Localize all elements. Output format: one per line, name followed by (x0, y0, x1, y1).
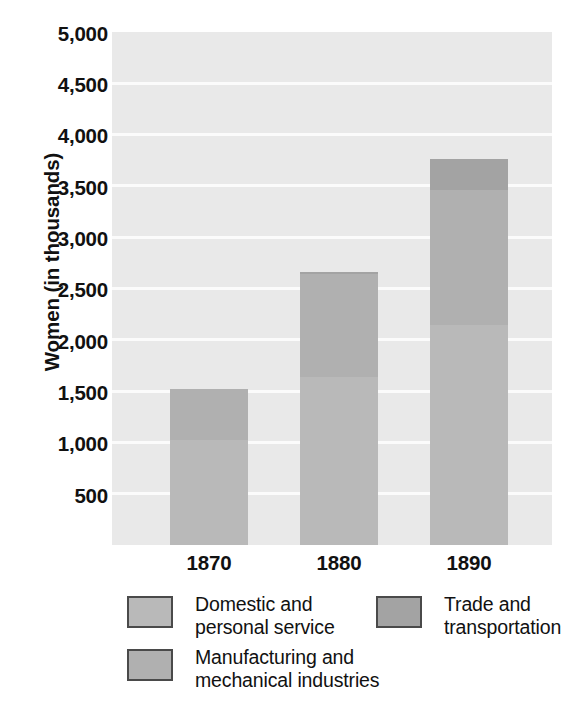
legend-swatch-manufacturing-icon (127, 649, 173, 681)
y-tick-label: 3,500 (4, 178, 108, 199)
bar-segment-trade[interactable] (300, 272, 378, 274)
legend-swatch-domestic-icon (127, 596, 173, 628)
legend-item-manufacturing[interactable]: Manufacturing and mechanical industries (127, 646, 379, 691)
y-tick-label: 4,500 (4, 75, 108, 96)
bar-1880[interactable] (300, 272, 378, 545)
bar-segment-manufacturing[interactable] (300, 274, 378, 377)
y-tick-label: 1,500 (4, 383, 108, 404)
x-tick-label-1890: 1890 (409, 551, 529, 575)
stacked-bar-chart: Women (in thousands) 5,000 4,500 4,000 3… (0, 0, 576, 705)
legend-swatch-trade-icon (376, 596, 422, 628)
y-tick-label: 4,000 (4, 126, 108, 147)
y-tick-label: 1,000 (4, 434, 108, 455)
legend-label-manufacturing: Manufacturing and mechanical industries (195, 646, 379, 691)
bar-segment-domestic[interactable] (430, 325, 508, 545)
x-tick-label-1870: 1870 (149, 551, 269, 575)
legend-item-domestic[interactable]: Domestic and personal service (127, 593, 335, 638)
legend-label-domestic: Domestic and personal service (195, 593, 335, 638)
y-tick-label: 500 (4, 486, 108, 507)
bar-1890[interactable] (430, 159, 508, 545)
legend-label-trade: Trade and transportation (444, 593, 561, 638)
bar-1870[interactable] (170, 389, 248, 545)
bar-segment-manufacturing[interactable] (430, 190, 508, 325)
bar-segment-domestic[interactable] (300, 377, 378, 545)
bar-segment-trade[interactable] (430, 159, 508, 190)
legend: Domestic and personal service Trade and … (0, 588, 576, 705)
legend-item-trade[interactable]: Trade and transportation (376, 593, 561, 638)
y-axis-tick-labels: 5,000 4,500 4,000 3,500 3,000 2,500 2,00… (0, 32, 108, 545)
y-tick-label: 2,500 (4, 280, 108, 301)
y-tick-label: 3,000 (4, 229, 108, 250)
x-tick-label-1880: 1880 (279, 551, 399, 575)
bar-segment-manufacturing[interactable] (170, 389, 248, 440)
y-tick-label: 2,000 (4, 332, 108, 353)
bar-segment-domestic[interactable] (170, 440, 248, 545)
y-tick-label: 5,000 (4, 24, 108, 45)
plot-area (112, 32, 552, 545)
gridline (112, 82, 552, 85)
gridline (112, 133, 552, 136)
